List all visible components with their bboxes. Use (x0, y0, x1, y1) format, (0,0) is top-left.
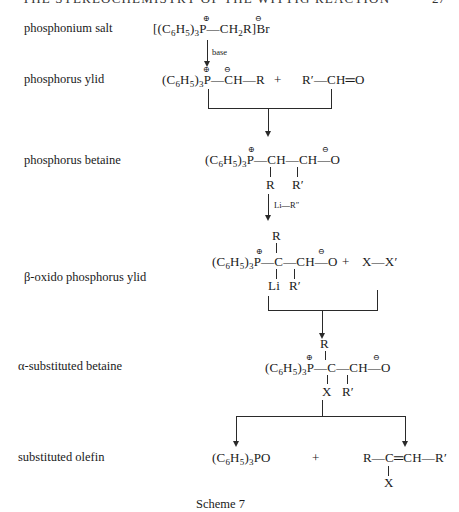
reaction-arrow-5a (236, 416, 237, 442)
arrow-head-icon (402, 441, 408, 447)
substituent-x: X (384, 475, 394, 491)
bond-line (347, 375, 348, 384)
substituent-r-top: R (320, 336, 329, 352)
negative-charge-icon: ⊖ (224, 66, 231, 74)
reaction-arrow-3 (268, 194, 269, 216)
plus-sign: + (342, 254, 350, 270)
formula-olefin: R—C═CH—R′ (363, 450, 447, 466)
label-phosphorus-ylid: phosphorus ylid (24, 72, 104, 87)
substituent-x: X (322, 384, 332, 400)
formula-halogen: X—X′ (362, 254, 397, 270)
formula-triphenylphosphine-oxide: (C6H5)3PO (212, 450, 271, 467)
reaction-arrow-5b (405, 416, 406, 442)
arrow-head-icon (265, 131, 271, 137)
substituent-r: R (266, 177, 275, 193)
plus-sign: + (312, 450, 320, 466)
bond-line (270, 167, 271, 177)
bracket-bottom (268, 310, 378, 311)
bracket-top (236, 416, 406, 417)
reaction-arrow-4 (322, 310, 323, 334)
positive-charge-icon: ⊕ (203, 66, 210, 74)
positive-charge-icon: ⊕ (306, 354, 313, 362)
formula-phosphorus-ylid: (C6H5)3P—CH—R (162, 72, 265, 89)
arrow-head-icon (265, 215, 271, 221)
scheme-caption: Scheme 7 (196, 497, 245, 512)
bond-line (327, 375, 328, 384)
label-substituted-olefin: substituted olefin (18, 450, 104, 465)
positive-charge-icon: ⊕ (248, 146, 255, 154)
negative-charge-icon: ⊖ (255, 15, 262, 23)
label-phosphorus-betaine: phosphorus betaine (24, 153, 121, 168)
bond-line (297, 167, 298, 177)
positive-charge-icon: ⊕ (203, 15, 210, 23)
bond-line (276, 243, 277, 253)
plus-sign: + (274, 72, 282, 88)
reaction-arrow-2 (268, 108, 269, 132)
label-alpha-substituted-betaine: α-substituted betaine (18, 359, 122, 374)
arrow-head-icon (233, 441, 239, 447)
negative-charge-icon: ⊖ (322, 146, 329, 154)
positive-charge-icon: ⊕ (256, 248, 263, 256)
formula-aldehyde: R′—CH═O (302, 72, 365, 88)
formula-beta-oxido-ylid: (C6H5)3P—C—CH—O (212, 254, 338, 271)
substituent-r-prime: R′ (342, 384, 354, 400)
bracket-right (331, 89, 332, 108)
formula-phosphonium-salt: [(C6H5)3P—CH2R]Br (153, 21, 270, 38)
bracket-bottom (208, 108, 332, 109)
substituent-li: Li (268, 278, 280, 294)
reagent-base: base (212, 47, 227, 57)
substituent-r-prime: R′ (292, 177, 304, 193)
substituent-r-prime: R′ (289, 278, 301, 294)
formula-phosphorus-betaine: (C6H5)3P—CH—CH—O (205, 152, 340, 169)
bracket-stem (322, 400, 323, 416)
negative-charge-icon: ⊖ (318, 248, 325, 256)
label-beta-oxido-ylid: β-oxido phosphorus ylid (24, 270, 146, 285)
bracket-left (268, 296, 269, 310)
bracket-left (208, 89, 209, 108)
reagent-lithium: Li—R″ (274, 200, 299, 210)
page-number: 27 (432, 0, 445, 7)
reaction-arrow-1 (207, 40, 208, 62)
bond-line (325, 351, 326, 360)
label-phosphonium-salt: phosphonium salt (24, 21, 113, 36)
running-header: THE STEREOCHEMISTRY OF THE WITTIG REACTI… (22, 0, 390, 7)
negative-charge-icon: ⊖ (373, 354, 380, 362)
substituent-r-top: R (272, 228, 281, 244)
bracket-right (377, 290, 378, 310)
